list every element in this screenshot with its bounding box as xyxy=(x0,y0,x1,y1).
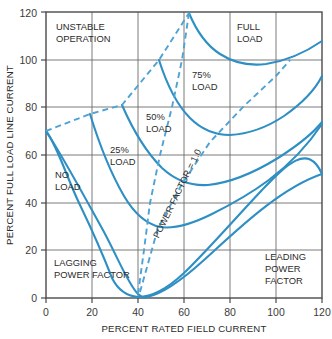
leading-line-3: FACTOR xyxy=(265,275,303,286)
x-tick-120: 120 xyxy=(313,306,331,318)
y-tick-80: 80 xyxy=(25,101,37,113)
unstable-line-1: UNSTABLE xyxy=(56,21,105,32)
x-tick-100: 100 xyxy=(267,306,285,318)
load-25-line-1: 25% xyxy=(110,144,129,155)
no-load-line-1: NO xyxy=(55,169,69,180)
y-tick-20: 20 xyxy=(25,244,37,256)
y-tick-labels: 0 20 40 60 80 100 120 xyxy=(19,7,37,304)
load-50-line-2: LOAD xyxy=(146,123,172,134)
full-load-line-2: LOAD xyxy=(237,33,263,44)
leading-line-2: POWER xyxy=(265,263,301,274)
x-tick-marks xyxy=(46,298,322,303)
y-axis-title: PERCENT FULL LOAD LINE CURRENT xyxy=(4,65,15,245)
x-tick-60: 60 xyxy=(178,306,190,318)
x-tick-labels: 0 20 40 60 80 100 120 xyxy=(43,306,331,318)
y-tick-marks xyxy=(41,12,46,298)
region-label-full-load: FULL LOAD xyxy=(237,21,263,44)
no-load-line-2: LOAD xyxy=(55,181,81,192)
region-label-leading-power-factor: LEADING POWER FACTOR xyxy=(265,251,306,286)
x-axis-title: PERCENT RATED FIELD CURRENT xyxy=(102,323,267,334)
full-load-line-1: FULL xyxy=(237,21,260,32)
x-tick-0: 0 xyxy=(43,306,49,318)
x-tick-80: 80 xyxy=(224,306,236,318)
y-tick-100: 100 xyxy=(19,54,37,66)
v-curves-chart: 0 20 40 60 80 100 120 0 20 40 60 80 100 … xyxy=(0,0,332,339)
y-tick-60: 60 xyxy=(25,149,37,161)
unstable-line-2: OPERATION xyxy=(56,33,111,44)
y-tick-120: 120 xyxy=(19,7,37,19)
y-tick-40: 40 xyxy=(25,197,37,209)
load-25-line-2: LOAD xyxy=(110,156,136,167)
chart-canvas: 0 20 40 60 80 100 120 0 20 40 60 80 100 … xyxy=(0,0,332,339)
y-tick-0: 0 xyxy=(31,292,37,304)
load-75-line-1: 75% xyxy=(192,69,211,80)
lagging-line-1: LAGGING xyxy=(54,257,97,268)
x-tick-40: 40 xyxy=(132,306,144,318)
x-tick-20: 20 xyxy=(86,306,98,318)
load-50-line-1: 50% xyxy=(146,111,165,122)
lagging-line-2: POWER FACTOR xyxy=(54,269,130,280)
load-75-line-2: LOAD xyxy=(192,81,218,92)
leading-line-1: LEADING xyxy=(265,251,306,262)
region-label-unstable-operation: UNSTABLE OPERATION xyxy=(56,21,111,44)
